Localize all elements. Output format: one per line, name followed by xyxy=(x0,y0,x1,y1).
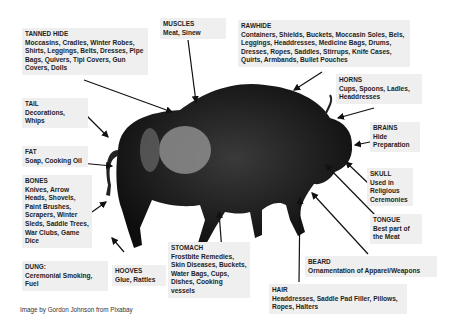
label-body: Frostbite Remedies, Skin Diseases, Bucke… xyxy=(171,253,247,296)
label-title: BEARD xyxy=(308,258,434,267)
label-skull: SKULL Used in Religious Ceremonies xyxy=(367,168,413,206)
label-body: Meat, Sinew xyxy=(163,29,223,38)
label-body: Glue, Rattles xyxy=(115,276,163,285)
label-title: HOOVES xyxy=(115,267,163,276)
label-title: HAIR xyxy=(272,286,404,295)
label-title: SKULL xyxy=(370,170,410,179)
label-title: STOMACH xyxy=(171,244,247,253)
label-fat: FAT Soap, Cooking Oil xyxy=(22,146,88,167)
label-body: Soap, Cooking Oil xyxy=(25,157,85,166)
label-tongue: TONGUE Best part of the Meat xyxy=(370,214,422,244)
label-tanned-hide: TANNED HIDE Moccasins, Cradles, Winter R… xyxy=(22,28,148,75)
label-body: Used in Religious Ceremonies xyxy=(370,179,410,205)
label-dung: DUNG: Ceremonial Smoking, Fuel xyxy=(22,261,108,291)
label-stomach: STOMACH Frostbite Remedies, Skin Disease… xyxy=(168,242,250,298)
label-title: BONES xyxy=(25,177,89,186)
label-brains: BRAINS Hide Preparation xyxy=(370,122,420,152)
buffalo-uses-diagram: TANNED HIDE Moccasins, Cradles, Winter R… xyxy=(0,0,452,331)
label-title: TANNED HIDE xyxy=(25,30,145,39)
label-beard: BEARD Ornamentation of Apparel/Weapons xyxy=(305,256,437,277)
label-body: Headdresses, Saddle Pad Filler, Pillows,… xyxy=(272,295,404,312)
label-title: DUNG: xyxy=(25,263,105,272)
label-title: TONGUE xyxy=(373,216,419,225)
buffalo-body xyxy=(106,84,352,248)
label-body: Containers, Shields, Buckets, Moccasin S… xyxy=(241,31,407,65)
label-body: Knives, Arrow Heads, Shovels, Paint Brus… xyxy=(25,186,89,246)
label-tail: TAIL Decorations, Whips xyxy=(22,98,88,128)
label-title: FAT xyxy=(25,148,85,157)
label-body: Best part of the Meat xyxy=(373,225,419,242)
image-credit: Image by Gordon Johnson from Pixabay xyxy=(20,306,133,313)
label-body: Cups, Spoons, Ladles, Headdresses xyxy=(339,85,419,102)
label-body: Ornamentation of Apparel/Weapons xyxy=(308,267,434,276)
label-title: TAIL xyxy=(25,100,85,109)
label-muscles: MUSCLES Meat, Sinew xyxy=(160,18,226,39)
label-title: HORNS xyxy=(339,76,419,85)
label-body: Decorations, Whips xyxy=(25,109,85,126)
label-hooves: HOOVES Glue, Rattles xyxy=(112,265,166,286)
label-horns: HORNS Cups, Spoons, Ladles, Headdresses xyxy=(336,74,422,104)
label-bones: BONES Knives, Arrow Heads, Shovels, Pain… xyxy=(22,175,92,248)
label-rawhide: RAWHIDE Containers, Shields, Buckets, Mo… xyxy=(238,20,410,67)
label-body: Hide Preparation xyxy=(373,133,417,150)
label-hair: HAIR Headdresses, Saddle Pad Filler, Pil… xyxy=(269,284,407,314)
label-body: Moccasins, Cradles, Winter Robes, Shirts… xyxy=(25,39,145,73)
label-title: BRAINS xyxy=(373,124,417,133)
label-body: Ceremonial Smoking, Fuel xyxy=(25,272,105,289)
label-title: MUSCLES xyxy=(163,20,223,29)
label-title: RAWHIDE xyxy=(241,22,407,31)
